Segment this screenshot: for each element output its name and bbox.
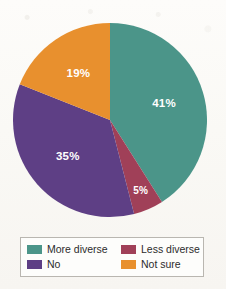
pie-label-no: 35% [56, 150, 80, 162]
legend-item-less-diverse[interactable]: Less diverse [121, 242, 211, 257]
chart-legend: More diverse Less diverse No Not sure [20, 237, 204, 277]
legend-swatch-less-diverse [121, 245, 136, 254]
pie-chart-plot-area: 41% 5% 35% 19% [13, 23, 207, 217]
legend-swatch-not-sure [121, 260, 136, 269]
pie-chart-svg: 41% 5% 35% 19% [13, 23, 207, 217]
pie-label-not-sure: 19% [67, 67, 91, 79]
legend-label-no: No [47, 259, 60, 270]
pie-slices [13, 23, 207, 217]
legend-item-no[interactable]: No [27, 257, 121, 272]
pie-label-less-diverse: 5% [133, 185, 148, 196]
pie-chart-figure: 41% 5% 35% 19% More diverse Less diverse… [0, 0, 226, 289]
legend-swatch-no [27, 260, 42, 269]
legend-label-more-diverse: More diverse [47, 244, 108, 255]
pie-label-more-diverse: 41% [152, 97, 176, 109]
legend-item-not-sure[interactable]: Not sure [121, 257, 211, 272]
legend-grid: More diverse Less diverse No Not sure [27, 242, 198, 272]
legend-item-more-diverse[interactable]: More diverse [27, 242, 121, 257]
legend-label-not-sure: Not sure [141, 259, 181, 270]
legend-swatch-more-diverse [27, 245, 42, 254]
legend-label-less-diverse: Less diverse [141, 244, 200, 255]
